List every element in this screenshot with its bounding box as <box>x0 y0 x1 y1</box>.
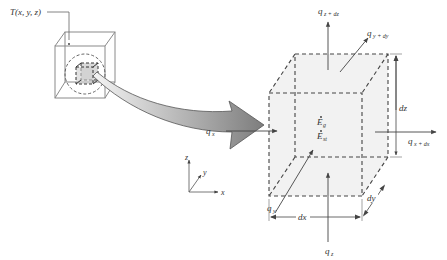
svg-text:dx: dx <box>298 212 307 222</box>
svg-text:z: z <box>330 251 334 257</box>
dimension-dx: dx <box>269 199 362 222</box>
svg-text:q: q <box>367 28 372 38</box>
svg-text:z + dz: z + dz <box>323 11 339 17</box>
svg-text:y + dy: y + dy <box>372 33 389 39</box>
svg-text:q: q <box>325 246 330 256</box>
dimension-dz: dz <box>390 54 410 157</box>
y-axis-label: y <box>202 168 207 177</box>
x-axis-label: x <box>220 188 225 197</box>
svg-text:q: q <box>318 6 323 16</box>
z-axis-label: z <box>184 153 189 162</box>
control-volume-cube <box>269 54 388 196</box>
svg-text:x: x <box>211 131 215 137</box>
svg-text:y: y <box>272 208 276 214</box>
svg-text:x + dx: x + dx <box>413 141 430 147</box>
svg-text:dy: dy <box>367 193 376 203</box>
svg-text:E: E <box>316 117 323 127</box>
svg-text:q: q <box>408 136 413 146</box>
svg-text:q: q <box>206 126 211 136</box>
control-volume-diagram: T(x, y, z) z y x E g E st <box>0 0 447 260</box>
svg-text:q: q <box>267 203 272 213</box>
svg-text:E: E <box>316 131 323 141</box>
coordinate-axes: z y x <box>184 153 225 197</box>
svg-text:g: g <box>323 122 326 128</box>
svg-text:dz: dz <box>399 103 408 113</box>
svg-text:T(x, y, z): T(x, y, z) <box>10 7 41 17</box>
temperature-point-label: T(x, y, z) <box>10 7 69 40</box>
small-cube <box>55 32 115 98</box>
magnify-arrow <box>93 72 264 149</box>
svg-text:st: st <box>323 136 327 142</box>
